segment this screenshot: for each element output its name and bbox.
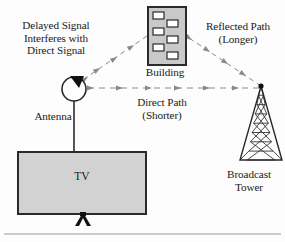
building-shape: [148, 7, 186, 65]
label-direct-path: Direct Path (Shorter): [110, 96, 214, 121]
label-antenna: Antenna: [22, 110, 84, 123]
broadcast-tower-shape: [240, 83, 282, 160]
building-window: [167, 20, 178, 27]
tv-shape: [18, 152, 146, 226]
building-window: [153, 44, 164, 51]
label-reflected-path: Reflected Path (Longer): [192, 20, 284, 45]
tv-stand-neck: [80, 212, 86, 216]
direct-path-arrowheads: [87, 85, 239, 90]
label-broadcast-tower: Broadcast Tower: [213, 168, 285, 193]
direct-path-segment: [84, 85, 259, 90]
label-tv: TV: [18, 170, 146, 182]
diagram-canvas: Delayed Signal Interferes with Direct Si…: [0, 0, 285, 242]
building-window: [153, 28, 164, 35]
label-delayed-signal: Delayed Signal Interferes with Direct Si…: [2, 19, 110, 57]
building-window: [167, 36, 178, 43]
label-building: Building: [129, 66, 201, 79]
building-window: [167, 52, 178, 59]
building-window: [153, 12, 164, 19]
tower-tip-dot: [258, 83, 263, 88]
tower-lattice: [240, 86, 282, 160]
tv-body: [18, 152, 146, 214]
